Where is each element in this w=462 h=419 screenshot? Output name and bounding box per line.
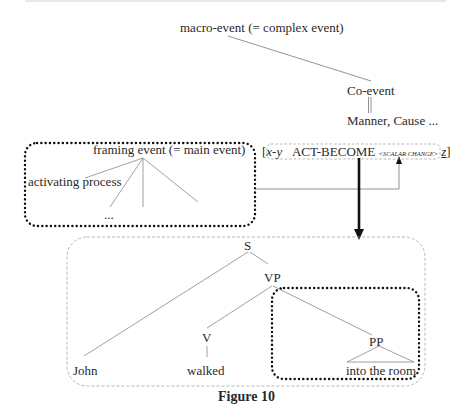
edge-s-john [84,252,248,356]
formula-args: x-y [266,144,282,159]
co-event-types-label: Manner, Cause ... [347,114,438,128]
activating-process-label: activating process [28,175,122,189]
formula-subscript: <SCALAR CHANGE> [379,150,439,157]
thick-arrow-head [354,229,364,240]
node-v: V [202,331,211,345]
close-bracket: ] [446,144,450,159]
semantic-formula: [x-y ACT-BECOME <SCALAR CHANGE> z] [262,145,451,161]
diagram-canvas [0,0,462,419]
macro-event-label: macro-event (= complex event) [180,21,344,35]
edge-s-vp [250,252,268,264]
edge-framing-right [143,158,198,202]
co-event-label: Co-event [347,84,395,98]
node-vp: VP [264,271,281,285]
edge-macro-coevent [228,36,371,81]
node-pp: PP [369,335,383,349]
leaf-into-the-room: into the room [346,364,416,378]
leaf-john: John [73,364,98,378]
framing-event-label: framing event (= main event) [93,143,245,157]
edge-vp-v [207,286,272,328]
figure-caption: Figure 10 [218,390,275,404]
node-s: S [244,239,251,253]
leaf-walked: walked [187,364,225,378]
edge-vp-pp [273,286,372,335]
ellipsis-label: ... [104,208,114,222]
connector-line [255,163,399,189]
formula-predicate: ACT-BECOME [292,144,375,159]
